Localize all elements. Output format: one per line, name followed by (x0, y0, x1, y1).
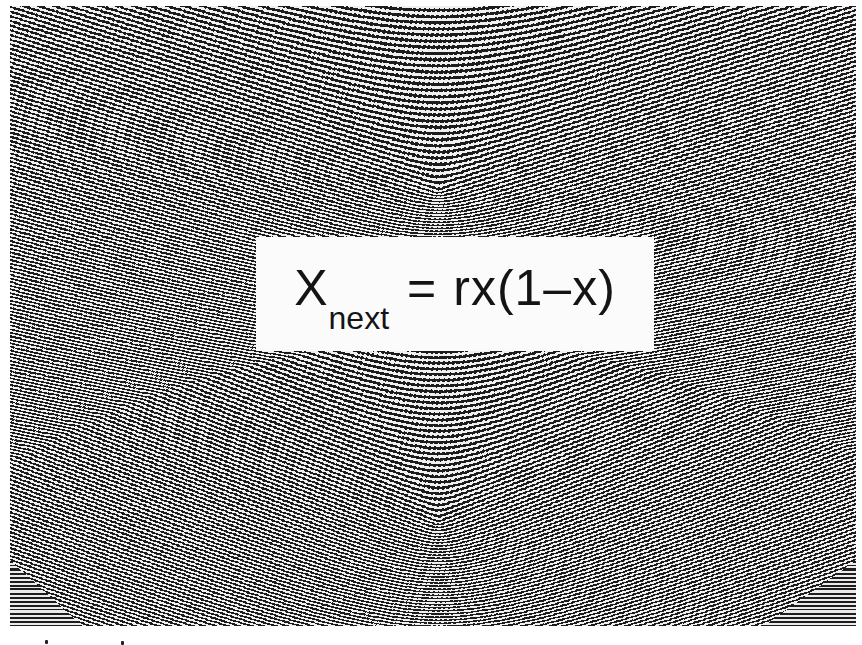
formula-rhs: rx(1–x) (453, 260, 616, 316)
formula-variable: X (294, 260, 328, 316)
scan-speck (121, 641, 124, 645)
formula-equals: = (407, 260, 437, 316)
scan-speck (45, 640, 48, 644)
scan-artifacts (0, 630, 862, 645)
logistic-map-formula: Xnext=rx(1–x) (294, 263, 616, 313)
formula-label: Xnext=rx(1–x) (256, 237, 654, 351)
formula-subscript: next (329, 300, 389, 336)
